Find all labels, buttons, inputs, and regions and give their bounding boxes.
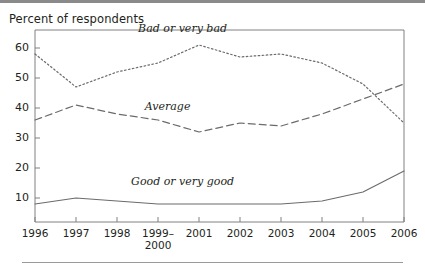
x-axis-tick-label: 1997 (53, 227, 99, 239)
y-axis-tick-label: 10 (7, 191, 29, 204)
x-axis-tick-label: 2006 (381, 227, 425, 239)
y-axis-tick-label: 20 (7, 161, 29, 174)
x-axis-tick-label: 2001 (176, 227, 222, 239)
x-axis-tick-label: 1996 (12, 227, 58, 239)
series-label-1: Average (145, 100, 191, 113)
y-axis-tick-label: 60 (7, 41, 29, 54)
series-line-1 (35, 84, 404, 132)
x-axis-tick-label: 2004 (299, 227, 345, 239)
y-axis-tick-label: 50 (7, 71, 29, 84)
y-axis-tick-label: 30 (7, 131, 29, 144)
plot-frame (35, 30, 404, 222)
x-axis-tick-label: 2003 (258, 227, 304, 239)
series-label-2: Good or very good (131, 175, 234, 188)
series-line-0 (35, 45, 404, 123)
figure-container: Percent of respondents 102030405060 1996… (0, 0, 425, 273)
series-label-0: Bad or very bad (138, 22, 227, 35)
bottom-divider-rule (22, 262, 403, 263)
x-axis-tick-label: 1999– 2000 (135, 227, 181, 251)
y-axis-tick-label: 40 (7, 101, 29, 114)
x-axis-tick-label: 1998 (94, 227, 140, 239)
y-axis-ticks (35, 48, 40, 198)
x-axis-tick-label: 2002 (217, 227, 263, 239)
x-axis-tick-label: 2005 (340, 227, 386, 239)
x-axis-ticks (35, 217, 404, 222)
